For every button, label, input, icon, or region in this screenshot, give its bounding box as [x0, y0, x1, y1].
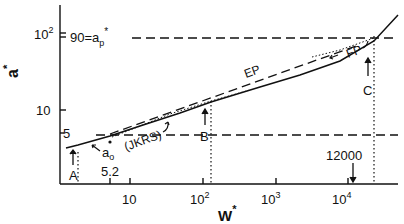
annotation-fp: FP [344, 42, 363, 60]
y-tick-5: 5 [63, 126, 70, 141]
a0-point [108, 140, 111, 143]
x-axis-label: W* [218, 203, 237, 224]
series-solid [66, 15, 398, 148]
y-tick-100: 102 [34, 25, 53, 42]
arrow-B-icon [202, 109, 208, 125]
chart: 102 10 5 a* 10 102 103 104 W* 90=ap* EP … [0, 0, 404, 224]
arrow-C-icon [365, 58, 371, 76]
annotation-12000: 12000 [326, 148, 362, 163]
label-B: B [200, 129, 209, 144]
annotation-ep: EP [242, 62, 262, 81]
y-tick-10: 10 [36, 103, 50, 118]
annotation-a0: ao [102, 145, 114, 162]
x-tick-10: 10 [122, 192, 136, 207]
annotation-52: 5.2 [101, 164, 119, 179]
label-A: A [69, 168, 78, 183]
label-C: C [363, 83, 372, 98]
x-tick-100: 102 [190, 190, 209, 207]
y-axis-label: a* [1, 64, 21, 78]
x-tick-1000: 103 [261, 190, 280, 207]
arrow-A-icon [70, 150, 76, 165]
annotation-jkrs: (JKRS) [122, 127, 163, 153]
fp-arrow-icon [330, 55, 338, 59]
series-ep [110, 46, 356, 134]
a0-arrow-icon [92, 145, 100, 151]
arrow-12000-icon [350, 163, 356, 182]
x-tick-10000: 104 [332, 190, 351, 207]
ap-label: 90=ap* [70, 26, 108, 48]
jkrs-curl-icon [163, 122, 169, 132]
